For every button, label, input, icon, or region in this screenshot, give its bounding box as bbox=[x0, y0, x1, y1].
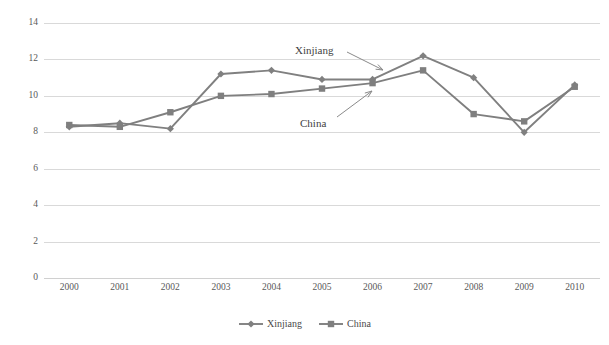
chart-legend: XinjiangChina bbox=[0, 318, 609, 330]
x-axis-tick-label: 2003 bbox=[211, 283, 230, 293]
x-axis-tick-label: 2007 bbox=[414, 283, 433, 293]
data-point-marker bbox=[117, 124, 123, 130]
data-point-marker bbox=[572, 84, 578, 90]
data-point-marker bbox=[66, 122, 72, 128]
data-point-marker bbox=[319, 85, 325, 91]
x-axis-tick-label: 2002 bbox=[161, 283, 180, 293]
legend-marker-diamond-icon bbox=[238, 318, 264, 330]
legend-marker-square-icon bbox=[318, 318, 344, 330]
legend-item-xinjiang[interactable]: Xinjiang bbox=[238, 318, 302, 330]
data-point-marker bbox=[369, 80, 375, 86]
data-point-marker bbox=[268, 91, 274, 97]
x-axis-tick-label: 2009 bbox=[515, 283, 534, 293]
x-axis: 2000200120022003200420052006200720082009… bbox=[44, 283, 600, 299]
legend-label: China bbox=[347, 319, 371, 329]
annotation-label-xinjiang: Xinjiang bbox=[295, 45, 334, 56]
data-point-marker bbox=[521, 118, 527, 124]
x-axis-tick-label: 2001 bbox=[110, 283, 129, 293]
x-axis-tick-label: 2005 bbox=[313, 283, 332, 293]
x-axis-tick-label: 2008 bbox=[464, 283, 483, 293]
x-axis-tick-label: 2006 bbox=[363, 283, 382, 293]
data-point-marker bbox=[419, 52, 426, 59]
x-axis-tick-label: 2004 bbox=[262, 283, 281, 293]
data-point-marker bbox=[318, 76, 325, 83]
data-point-marker bbox=[218, 93, 224, 99]
x-axis-tick-label: 2010 bbox=[565, 283, 584, 293]
legend-label: Xinjiang bbox=[267, 319, 302, 329]
data-point-marker bbox=[167, 109, 173, 115]
data-point-marker bbox=[268, 67, 275, 74]
x-axis-tick-label: 2000 bbox=[60, 283, 79, 293]
annotation-arrow-line bbox=[337, 91, 372, 117]
annotation-label-china: China bbox=[300, 118, 326, 129]
data-point-marker bbox=[420, 67, 426, 73]
data-point-marker bbox=[470, 111, 476, 117]
annotation-arrow-line bbox=[347, 52, 383, 70]
legend-item-china[interactable]: China bbox=[318, 318, 371, 330]
line-chart: 02468101214 XinjiangChina 20002001200220… bbox=[0, 0, 609, 345]
